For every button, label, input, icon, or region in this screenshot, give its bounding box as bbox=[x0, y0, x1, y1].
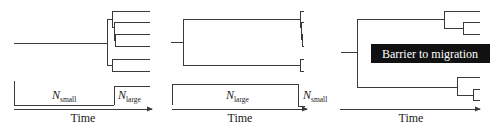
barrier-to-migration-label: Barrier to migration bbox=[382, 47, 478, 61]
panel-2-time-label: Time bbox=[228, 111, 253, 125]
panel-2-n-large-label: Nlarge bbox=[225, 88, 250, 104]
panel-3: Barrier to migration Time bbox=[340, 11, 490, 125]
panel-1-n-small-label: Nsmall bbox=[51, 88, 76, 104]
panel-2: Nlarge Nsmall Time bbox=[171, 11, 327, 125]
panel-2-genealogy-tree bbox=[171, 11, 304, 71]
genealogy-diagram: Nsmall Nlarge Time bbox=[0, 0, 492, 130]
panel-2-n-small-label: Nsmall bbox=[302, 88, 327, 104]
panel-1-time-label: Time bbox=[71, 111, 96, 125]
panel-1-genealogy-tree bbox=[14, 11, 150, 71]
panel-3-time-label: Time bbox=[399, 111, 424, 125]
panel-1: Nsmall Nlarge Time bbox=[14, 11, 152, 125]
panel-1-n-large-label: Nlarge bbox=[117, 88, 142, 104]
